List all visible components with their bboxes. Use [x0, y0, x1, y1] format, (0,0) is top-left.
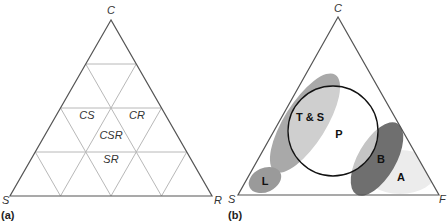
region-csr-label: CSR — [99, 129, 122, 141]
region-cr-label: CR — [129, 109, 145, 121]
figure: C S R CS CR CSR SR (a) — [0, 0, 447, 222]
region-b-label: B — [377, 153, 385, 165]
vertex-c-label: C — [107, 4, 115, 16]
vertex-f-label-b: F — [439, 193, 447, 205]
vertex-s-label-b: S — [228, 193, 236, 205]
panel-b-ternary-regions: C S F T & S P B A L (b) — [228, 2, 447, 221]
vertex-c-label-b: C — [334, 2, 342, 14]
region-sr-label: SR — [103, 153, 118, 165]
region-ts-label: T & S — [296, 111, 324, 123]
vertex-s-label: S — [2, 194, 10, 206]
vertex-r-label: R — [214, 194, 222, 206]
region-a-label: A — [397, 171, 405, 183]
panel-b-label: (b) — [228, 209, 242, 221]
panel-a-ternary-grid: C S R CS CR CSR SR (a) — [1, 4, 222, 221]
region-l-label: L — [262, 175, 269, 187]
region-p-label: P — [335, 128, 342, 140]
panel-a-label: (a) — [1, 209, 15, 221]
region-cs-label: CS — [79, 109, 95, 121]
